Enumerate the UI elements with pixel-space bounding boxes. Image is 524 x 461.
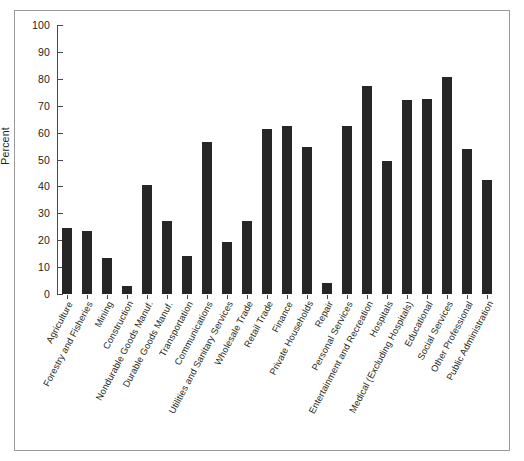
x-tick-mark	[287, 295, 288, 299]
bar	[422, 99, 433, 294]
bar	[242, 221, 253, 294]
bar	[402, 100, 413, 294]
bar	[202, 142, 213, 294]
x-tick-mark	[267, 295, 268, 299]
bar	[462, 149, 473, 294]
x-tick-mark	[247, 295, 248, 299]
x-tick-mark	[347, 295, 348, 299]
chart-figure: Percent 0102030405060708090100 Agricultu…	[0, 0, 524, 461]
y-tick-label: 80	[4, 74, 50, 85]
y-tick-label: 20	[4, 235, 50, 246]
x-tick-mark	[227, 295, 228, 299]
y-tick-mark	[57, 294, 63, 295]
bar	[162, 221, 173, 294]
x-tick-mark	[147, 295, 148, 299]
bar	[342, 126, 353, 294]
bar	[302, 147, 313, 294]
x-tick-mark	[327, 295, 328, 299]
x-tick-mark	[167, 295, 168, 299]
x-tick-mark	[487, 295, 488, 299]
bar	[362, 86, 373, 294]
y-tick-label: 40	[4, 181, 50, 192]
bar	[122, 286, 133, 294]
bar	[82, 231, 93, 294]
bar	[62, 228, 73, 294]
y-tick-label: 30	[4, 208, 50, 219]
y-tick-label: 60	[4, 127, 50, 138]
x-tick-mark	[67, 295, 68, 299]
plot-area	[57, 25, 497, 294]
bar	[182, 256, 193, 294]
bar	[482, 180, 493, 294]
x-tick-mark	[127, 295, 128, 299]
x-tick-mark	[87, 295, 88, 299]
bar	[382, 161, 393, 294]
bar	[102, 258, 113, 294]
y-tick-label: 90	[4, 47, 50, 58]
x-tick-mark	[407, 295, 408, 299]
bar	[442, 77, 453, 294]
y-tick-label: 0	[4, 289, 50, 300]
bar	[322, 283, 333, 294]
x-tick-mark	[467, 295, 468, 299]
x-tick-mark	[387, 295, 388, 299]
x-tick-mark	[187, 295, 188, 299]
bar	[142, 185, 153, 294]
x-tick-mark	[107, 295, 108, 299]
y-tick-label: 70	[4, 100, 50, 111]
y-tick-label: 50	[4, 154, 50, 165]
x-tick-mark	[207, 295, 208, 299]
bar	[262, 129, 273, 294]
x-tick-mark	[447, 295, 448, 299]
y-tick-label: 100	[4, 20, 50, 31]
y-tick-label: 10	[4, 262, 50, 273]
bar	[222, 242, 233, 294]
x-tick-mark	[427, 295, 428, 299]
bar	[282, 126, 293, 294]
x-tick-mark	[367, 295, 368, 299]
x-tick-mark	[307, 295, 308, 299]
